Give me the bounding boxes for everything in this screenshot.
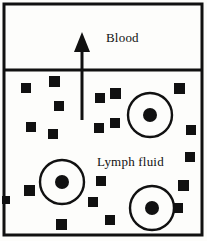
lymphocyte-cell [40,160,84,204]
lymph-particle [95,93,105,103]
lymph-particle [178,180,189,191]
lymph-particle [49,76,60,87]
lymph-particle [105,215,115,225]
blood-region-label: Blood [106,31,139,44]
lymph-particle [54,101,64,111]
lymph-particle [48,129,58,139]
cell-nucleus-dot [145,201,159,215]
lymph-particle [26,122,36,132]
lymph-particle [186,125,196,135]
lymph-particle [96,176,106,186]
arrow-head [74,32,90,52]
lymph-particle [110,88,121,99]
lymphocyte-cell [130,186,174,230]
lymph-particle [174,83,185,94]
cell-nucleus-dot [55,175,69,189]
flow-arrow [74,32,90,120]
lymph-particle [94,123,104,133]
lymph-particle [21,83,31,93]
lymph-particle [88,197,98,207]
diagram-canvas [0,0,207,241]
lymph-particle [24,185,35,196]
cell-nucleus-dot [143,108,157,122]
lymph-fluid-region-label: Lymph fluid [97,155,164,168]
lymph-particle [185,152,195,162]
lymph-particle [110,118,120,128]
lymphocyte-cell [128,93,172,137]
lymph-blood-diagram: Blood Lymph fluid [0,0,207,241]
lymph-particle [56,219,67,230]
lymph-particle [2,196,10,204]
